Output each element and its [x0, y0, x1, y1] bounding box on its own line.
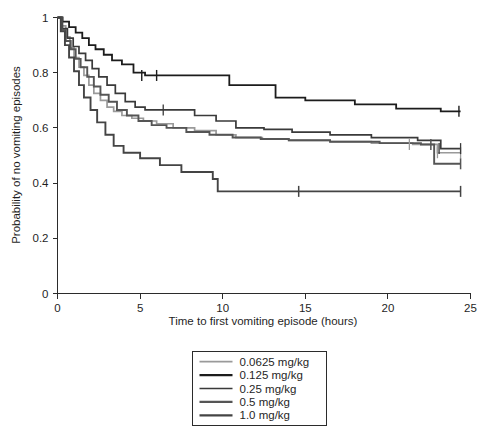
km-survival-chart: 00.20.40.60.81 0510152025 Time to first … — [0, 0, 495, 433]
x-tick-label-2: 10 — [216, 302, 229, 314]
x-tick-label-3: 15 — [299, 302, 312, 314]
legend-label-1: 0.125 mg/kg — [240, 369, 303, 381]
x-tick-label-0: 0 — [54, 302, 60, 314]
y-tick-label-5: 1 — [42, 12, 48, 24]
legend-label-3: 0.5 mg/kg — [240, 396, 291, 408]
y-tick-label-2: 0.4 — [33, 177, 50, 189]
legend-label-4: 1.0 mg/kg — [240, 409, 291, 421]
y-tick-label-4: 0.8 — [33, 67, 49, 79]
x-tick-label-4: 20 — [382, 302, 395, 314]
kaplan-meier-figure: 00.20.40.60.81 0510152025 Time to first … — [0, 0, 495, 433]
x-tick-label-1: 5 — [137, 302, 143, 314]
legend-label-0: 0.0625 mg/kg — [240, 356, 310, 368]
x-tick-label-5: 25 — [464, 302, 477, 314]
y-tick-label-0: 0 — [42, 288, 48, 300]
y-axis-title: Probability of no vomiting episodes — [10, 66, 22, 244]
legend-label-2: 0.25 mg/kg — [240, 383, 297, 395]
legend: 0.0625 mg/kg0.125 mg/kg0.25 mg/kg0.5 mg/… — [193, 352, 327, 426]
y-tick-label-1: 0.2 — [33, 232, 49, 244]
y-tick-label-3: 0.6 — [33, 122, 49, 134]
x-axis-title: Time to first vomiting episode (hours) — [169, 315, 358, 327]
